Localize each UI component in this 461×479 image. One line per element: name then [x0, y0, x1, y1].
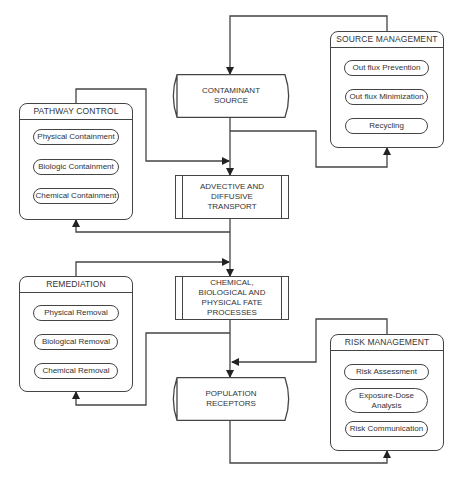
outflux-minimization-item: Out flux Minimization	[345, 89, 428, 105]
process-bar-left	[176, 176, 183, 218]
biologic-containment-item: Biologic Containment	[33, 159, 119, 175]
edge-advective-to-pathway	[76, 220, 230, 232]
remediation-group: REMEDIATION Physical Removal Biological …	[19, 276, 133, 392]
biological-removal-item: Biological Removal	[34, 334, 118, 350]
contaminant-source-label: CONTAMINANT SOURCE	[202, 86, 260, 106]
exposure-dose-analysis-item: Exposure-Dose Analysis	[345, 388, 428, 413]
fate-processes-node: CHEMICAL, BIOLOGICAL AND PHYSICAL FATE P…	[175, 276, 289, 320]
recycling-item: Recycling	[345, 118, 428, 134]
physical-removal-item: Physical Removal	[33, 305, 119, 321]
contaminant-source-node: CONTAMINANT SOURCE	[169, 74, 293, 118]
pathway-control-title: PATHWAY CONTROL	[20, 104, 132, 120]
risk-assessment-item: Risk Assessment	[344, 364, 429, 380]
fate-processes-label: CHEMICAL, BIOLOGICAL AND PHYSICAL FATE P…	[199, 278, 266, 318]
risk-communication-item: Risk Communication	[345, 421, 428, 437]
source-management-title: SOURCE MANAGEMENT	[331, 32, 443, 48]
process-bar-right	[281, 176, 288, 218]
outflux-prevention-item: Out flux Prevention	[344, 60, 429, 76]
physical-containment-item: Physical Containment	[33, 129, 119, 145]
remediation-title: REMEDIATION	[20, 277, 132, 293]
advective-transport-label: ADVECTIVE AND DIFFUSIVE TRANSPORT	[200, 182, 264, 212]
source-management-group: SOURCE MANAGEMENT Out flux Prevention Ou…	[330, 31, 444, 148]
advective-transport-node: ADVECTIVE AND DIFFUSIVE TRANSPORT	[175, 175, 289, 219]
pathway-control-group: PATHWAY CONTROL Physical Containment Bio…	[19, 103, 133, 220]
process-bar-right	[281, 277, 288, 319]
risk-management-group: RISK MANAGEMENT Risk Assessment Exposure…	[330, 334, 444, 451]
chemical-removal-item: Chemical Removal	[34, 363, 118, 379]
population-receptors-node: POPULATION RECEPTORS	[169, 377, 293, 421]
risk-management-title: RISK MANAGEMENT	[331, 335, 443, 351]
population-receptors-label: POPULATION RECEPTORS	[206, 389, 257, 409]
edge-remediation-to-fate	[76, 262, 229, 276]
chemical-containment-item: Chemical Containment	[33, 188, 119, 204]
process-bar-left	[176, 277, 183, 319]
